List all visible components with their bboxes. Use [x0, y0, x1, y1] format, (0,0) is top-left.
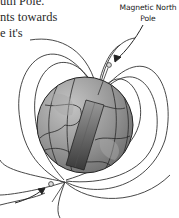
- earth-magnetic-field-figure: [0, 0, 179, 218]
